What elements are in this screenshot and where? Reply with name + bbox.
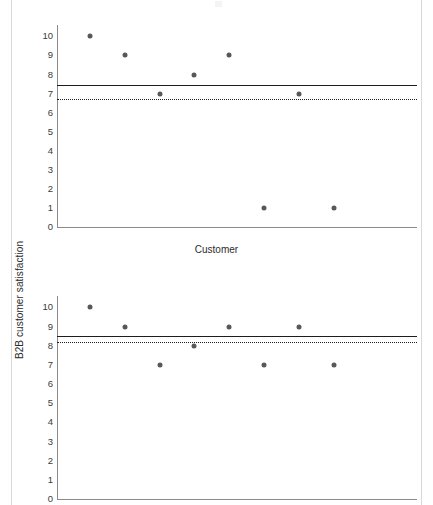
y-tick-label: 7 bbox=[31, 89, 53, 99]
y-axis-spine bbox=[57, 296, 58, 499]
y-axis-spine bbox=[57, 25, 58, 227]
data-point bbox=[122, 53, 127, 58]
mean-line bbox=[57, 85, 417, 86]
y-tick-label: 3 bbox=[31, 437, 53, 447]
y-tick-label: 9 bbox=[31, 51, 53, 61]
y-tick-label: 7 bbox=[31, 360, 53, 370]
y-tick-label: 2 bbox=[31, 456, 53, 466]
y-tick-label: 8 bbox=[31, 341, 53, 351]
x-axis-spine bbox=[57, 227, 417, 228]
y-tick-label: 5 bbox=[31, 398, 53, 408]
reference-line bbox=[57, 342, 417, 343]
data-point bbox=[331, 362, 336, 367]
data-point bbox=[192, 72, 197, 77]
y-tick-label: 0 bbox=[31, 222, 53, 232]
reference-line bbox=[57, 99, 417, 100]
y-tick-label: 0 bbox=[31, 494, 53, 504]
data-point bbox=[88, 34, 93, 39]
y-tick-label: 1 bbox=[31, 203, 53, 213]
data-point bbox=[262, 205, 267, 210]
y-tick-label: 4 bbox=[31, 418, 53, 428]
scatter-panel-bottom: B2B customer satisfaction 012345678910 bbox=[0, 253, 433, 505]
x-axis-spine bbox=[57, 499, 417, 500]
y-tick-label: 3 bbox=[31, 165, 53, 175]
y-tick-label: 6 bbox=[31, 108, 53, 118]
data-point bbox=[296, 324, 301, 329]
plot-area-bottom: 012345678910 bbox=[57, 296, 417, 499]
y-tick-label: 4 bbox=[31, 146, 53, 156]
y-tick-label: 5 bbox=[31, 127, 53, 137]
data-point bbox=[157, 91, 162, 96]
mean-line bbox=[57, 336, 417, 337]
figure-page: B2B customer satisfaction 012345678910 C… bbox=[0, 0, 433, 505]
y-tick-label: 9 bbox=[31, 322, 53, 332]
data-point bbox=[227, 324, 232, 329]
data-point bbox=[331, 205, 336, 210]
data-point bbox=[262, 362, 267, 367]
y-tick-label: 10 bbox=[31, 32, 53, 42]
data-point bbox=[192, 343, 197, 348]
y-tick-label: 1 bbox=[31, 475, 53, 485]
data-point bbox=[88, 305, 93, 310]
data-point bbox=[122, 324, 127, 329]
plot-area-top: 012345678910 bbox=[57, 25, 417, 227]
data-point bbox=[227, 53, 232, 58]
y-tick-label: 8 bbox=[31, 70, 53, 80]
y-tick-label: 6 bbox=[31, 379, 53, 389]
y-tick-label: 10 bbox=[31, 303, 53, 313]
data-point bbox=[296, 91, 301, 96]
data-point bbox=[157, 362, 162, 367]
scatter-panel-top: B2B customer satisfaction 012345678910 bbox=[0, 0, 433, 253]
y-tick-label: 2 bbox=[31, 184, 53, 194]
